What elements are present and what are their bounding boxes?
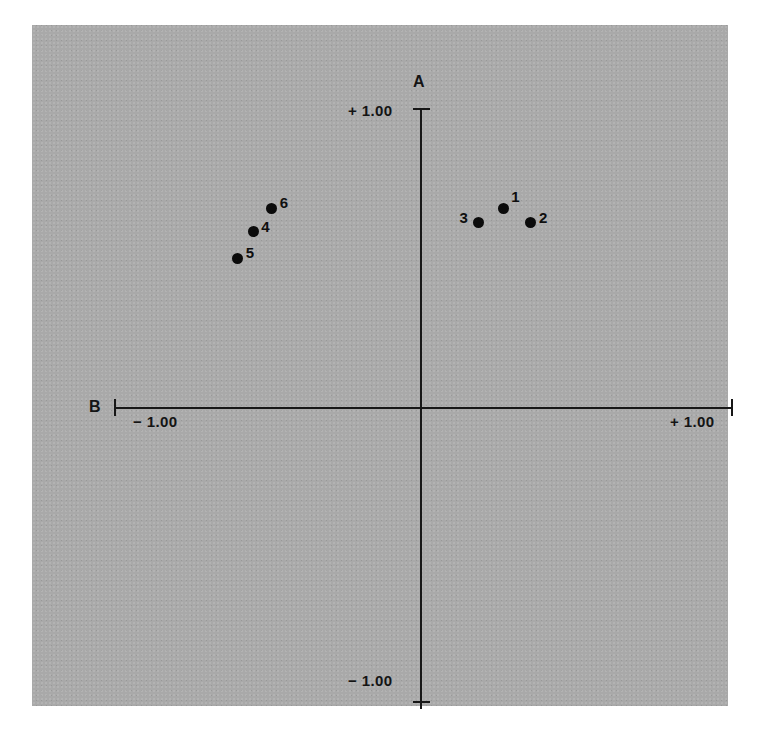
- data-point-label: 6: [280, 194, 288, 211]
- data-point-label: 3: [459, 209, 467, 226]
- data-point-label: 2: [539, 209, 547, 226]
- plot-area: A B − 1.00 + 1.00 + 1.00 − 1.00 123456: [32, 25, 728, 706]
- data-point: [232, 253, 243, 264]
- data-point-label: 1: [511, 188, 519, 205]
- data-point: [525, 217, 536, 228]
- y-axis-line: [420, 108, 422, 709]
- data-point: [498, 203, 509, 214]
- y-axis-tick-positive-one: [413, 108, 430, 110]
- y-axis-tick-negative-one: [413, 701, 430, 703]
- data-point-label: 5: [246, 244, 254, 261]
- x-axis-line: [114, 407, 732, 409]
- y-axis-label: A: [413, 73, 425, 91]
- data-point: [473, 217, 484, 228]
- x-axis-tick-label-positive-one: + 1.00: [670, 413, 715, 430]
- scatter-plot-figure: A B − 1.00 + 1.00 + 1.00 − 1.00 123456: [0, 0, 758, 732]
- y-axis-tick-label-negative-one: − 1.00: [348, 672, 393, 689]
- x-axis-tick-negative-one: [114, 399, 116, 416]
- x-axis-tick-positive-one: [731, 399, 733, 416]
- data-point: [248, 226, 259, 237]
- y-axis-tick-label-positive-one: + 1.00: [348, 102, 393, 119]
- x-axis-label: B: [89, 398, 101, 416]
- data-point: [266, 203, 277, 214]
- data-point-label: 4: [261, 218, 269, 235]
- x-axis-tick-label-negative-one: − 1.00: [133, 413, 178, 430]
